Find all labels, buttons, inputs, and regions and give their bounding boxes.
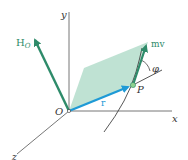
y-axis-label: y <box>60 9 67 20</box>
phi-arc <box>141 60 150 71</box>
z-axis <box>17 111 69 154</box>
origin-label: O <box>55 106 63 117</box>
momentum-vector-label: mv <box>151 39 166 49</box>
z-axis-label: z <box>11 152 17 160</box>
origin-point <box>67 109 70 112</box>
phi-label: φ <box>152 63 159 74</box>
angular-momentum-diagram: y x z O P r mv φ HO <box>0 0 188 160</box>
angular-momentum-label-sub: O <box>25 42 31 50</box>
position-vector-label: r <box>101 98 106 108</box>
point-p <box>130 82 135 87</box>
angular-momentum-label: HO <box>16 37 31 50</box>
x-axis-label: x <box>172 113 178 124</box>
angular-momentum-label-main: H <box>16 37 25 48</box>
point-label: P <box>136 84 144 95</box>
angular-momentum-vector <box>35 40 69 111</box>
